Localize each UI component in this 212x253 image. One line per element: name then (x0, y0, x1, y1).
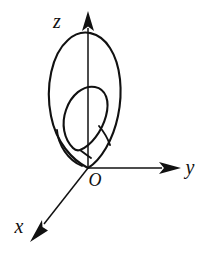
origin-label: O (89, 170, 102, 190)
y-axis-label: y (184, 156, 195, 179)
y-axis-arrowhead (159, 162, 181, 174)
inner-ellipse-curve (64, 87, 108, 151)
inner-right-crossing (99, 126, 110, 145)
figure-canvas: z y x O (0, 0, 212, 253)
x-axis-line (44, 168, 88, 224)
z-axis-label: z (52, 10, 61, 32)
x-axis-label: x (14, 215, 24, 237)
inner-tail-arc (80, 150, 91, 158)
coordinate-figure: z y x O (0, 0, 212, 253)
curves-group (49, 33, 121, 168)
